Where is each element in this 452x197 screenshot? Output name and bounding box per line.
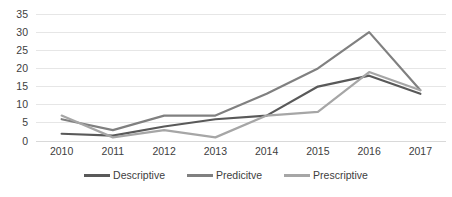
y-axis-tick-10: 10 [4,99,28,110]
series-lines [62,32,421,137]
y-axis-tick-0: 0 [4,136,28,147]
legend-item-descriptive[interactable]: Descriptive [84,170,165,181]
x-axis-tick-2010: 2010 [42,146,82,157]
legend-item-predicitve[interactable]: Predicitve [187,170,262,181]
x-axis-tick-2015: 2015 [298,146,338,157]
x-axis-tick-2014: 2014 [247,146,287,157]
y-axis-tick-35: 35 [4,9,28,20]
line-chart: 05101520253035 2010201120122013201420152… [0,0,452,197]
x-axis-tick-2017: 2017 [400,146,440,157]
x-axis-tick-2012: 2012 [144,146,184,157]
y-axis-tick-15: 15 [4,81,28,92]
chart-legend: DescriptivePredicitvePrescriptive [0,170,452,181]
x-axis-tick-2011: 2011 [93,146,133,157]
legend-item-prescriptive[interactable]: Prescriptive [284,170,368,181]
chart-plot-area [0,0,452,197]
y-axis-tick-5: 5 [4,117,28,128]
legend-swatch-icon [284,174,310,177]
legend-label: Descriptive [113,170,165,181]
x-axis-tick-2016: 2016 [349,146,389,157]
legend-label: Prescriptive [313,170,368,181]
y-axis-tick-25: 25 [4,45,28,56]
x-axis-tick-2013: 2013 [195,146,235,157]
legend-label: Predicitve [216,170,262,181]
legend-swatch-icon [84,174,110,177]
series-line-predicitve [62,32,421,130]
y-axis-tick-20: 20 [4,63,28,74]
y-axis-tick-30: 30 [4,27,28,38]
legend-swatch-icon [187,174,213,177]
